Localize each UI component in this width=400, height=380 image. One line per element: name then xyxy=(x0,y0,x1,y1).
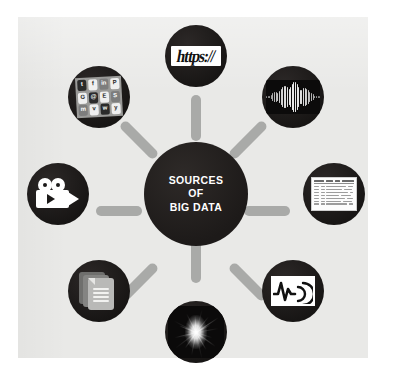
social-app-tile: w xyxy=(100,103,110,114)
table-row xyxy=(314,195,354,197)
node-science[interactable] xyxy=(165,301,227,363)
spoke-hub-to-video xyxy=(96,206,142,216)
hub-line-3: BIG DATA xyxy=(170,201,222,214)
social-app-tile: y xyxy=(111,103,121,114)
spreadsheet-table-icon xyxy=(311,177,357,211)
audio-waveform-icon xyxy=(266,80,320,114)
waveform-bar xyxy=(266,96,267,98)
sensor-signal-icon xyxy=(271,276,315,306)
table-row xyxy=(314,201,354,203)
node-documents[interactable] xyxy=(68,260,130,322)
waveform-bar xyxy=(303,88,304,105)
node-web[interactable]: https:// xyxy=(165,25,227,87)
table-row xyxy=(314,203,354,205)
node-social[interactable]: t f in P G @ E S m v w y xyxy=(68,66,130,128)
table-row xyxy=(314,198,354,200)
documents-stack-icon xyxy=(79,270,119,312)
table-row xyxy=(314,186,354,188)
table-row xyxy=(314,192,354,194)
waveform-bar xyxy=(277,93,278,101)
waveform-bar xyxy=(298,87,299,108)
social-app-tile: S xyxy=(110,90,120,101)
diagram-canvas: SOURCES OF BIG DATA https:// t f in P G … xyxy=(0,0,400,380)
node-sensor[interactable] xyxy=(262,260,324,322)
camera-lens xyxy=(68,192,79,206)
hub-line-1: SOURCES xyxy=(169,174,224,187)
node-video[interactable] xyxy=(27,163,89,225)
spoke-hub-to-social xyxy=(118,119,159,160)
waveform-bar xyxy=(316,96,317,98)
waveform-bar xyxy=(279,91,280,103)
table-header-row xyxy=(314,180,354,184)
social-app-tile: v xyxy=(89,104,99,115)
play-icon xyxy=(47,194,55,204)
waveform-bar xyxy=(290,87,291,107)
social-app-tile: E xyxy=(99,91,109,102)
waveform-bar xyxy=(282,87,283,107)
table-row xyxy=(314,189,354,191)
node-audio[interactable] xyxy=(262,66,324,128)
waveform-bar xyxy=(306,89,307,105)
node-tabular[interactable] xyxy=(303,163,365,225)
social-app-tile: P xyxy=(110,78,120,89)
waveform-bar xyxy=(269,96,270,98)
social-app-tile: m xyxy=(78,105,88,116)
video-camera-icon xyxy=(34,178,82,210)
social-app-tile: G xyxy=(78,92,88,103)
waveform-bar xyxy=(319,96,320,98)
particle-collision-icon xyxy=(168,306,224,358)
sensor-signal-glyph xyxy=(273,278,313,304)
spoke-hub-to-tabular xyxy=(244,206,290,216)
document-text-lines xyxy=(93,288,109,304)
waveform-bar xyxy=(311,93,312,100)
hub-line-2: OF xyxy=(188,187,203,200)
social-app-tile: @ xyxy=(89,92,99,103)
waveform-bar xyxy=(295,82,296,111)
waveform-bar xyxy=(289,89,290,105)
https-url-icon: https:// xyxy=(171,46,221,66)
waveform-bar xyxy=(274,92,275,102)
hub-sources-of-big-data[interactable]: SOURCES OF BIG DATA xyxy=(144,142,248,246)
social-app-tile: f xyxy=(88,79,98,90)
spoke-hub-to-web xyxy=(191,95,201,141)
waveform-bar xyxy=(287,87,288,107)
social-app-tile: t xyxy=(77,80,87,91)
social-media-apps-icon: t f in P G @ E S m v w y xyxy=(75,76,123,118)
social-app-tile: in xyxy=(99,78,109,89)
spoke-hub-to-audio xyxy=(227,119,268,160)
https-label: https:// xyxy=(176,46,217,66)
